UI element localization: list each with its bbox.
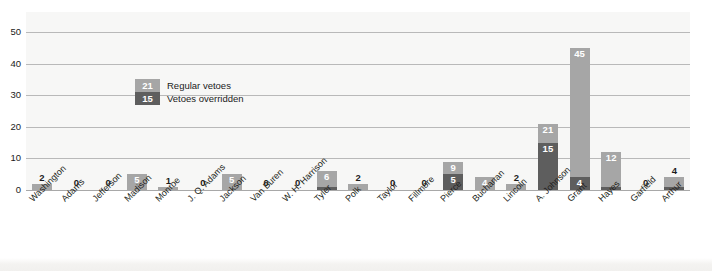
bar-value-label-total: 9: [443, 163, 463, 173]
bar-slot: 0: [630, 12, 662, 190]
bar-slot: 0: [282, 12, 314, 190]
bar-slot: 454: [567, 12, 599, 190]
page-edge-band: [0, 258, 712, 271]
bar-segment-regular-vetoes[interactable]: 45: [570, 48, 590, 177]
x-axis-label: Washington: [26, 192, 58, 210]
x-axis-label: Garfield: [627, 192, 659, 210]
bar-slot: 2: [29, 12, 61, 190]
y-tick-label-10: 10: [0, 153, 21, 163]
x-axis-label: Grant: [564, 192, 596, 210]
x-axis-label: Lincoln: [500, 192, 532, 210]
x-axis-label: Fillmore: [405, 192, 437, 210]
bar-value-label-total: 4: [664, 166, 684, 176]
x-axis-label: Tyler: [311, 192, 343, 210]
bar-value-label-overridden: 15: [538, 144, 558, 154]
x-axis-label: Jackson: [216, 192, 248, 210]
x-axis-label: Jefferson: [89, 192, 121, 210]
x-axis-label: Monroe: [152, 192, 184, 210]
chart-legend: 21 Regular vetoes 15 Vetoes overridden: [135, 79, 244, 105]
bar-slot: 4: [661, 12, 693, 190]
legend-swatch-regular-vetoes: 21: [135, 79, 160, 92]
bar-slot: 95: [440, 12, 472, 190]
bar-slot: 4: [472, 12, 504, 190]
x-axis-label: Madison: [121, 192, 153, 210]
y-tick-label-0: 0: [0, 185, 21, 195]
bar-value-label-total: 2: [348, 173, 368, 183]
x-axis-label: Adams: [58, 192, 90, 210]
x-axis-label: J. Q. Adams: [184, 192, 216, 210]
x-axis-label: Hayes: [595, 192, 627, 210]
legend-label-vetoes-overridden: Vetoes overridden: [160, 92, 244, 105]
bar-slot: 0: [61, 12, 93, 190]
bar-slot: 0: [92, 12, 124, 190]
bar-slot: 2115: [535, 12, 567, 190]
y-tick-label-20: 20: [0, 122, 21, 132]
bar-slot: 12: [598, 12, 630, 190]
bar-value-label-total: 21: [538, 125, 558, 135]
x-axis-label: Arthur: [658, 192, 690, 210]
y-tick-label-40: 40: [0, 59, 21, 69]
bar-slot: 0: [250, 12, 282, 190]
bar-slot: 0: [377, 12, 409, 190]
bar-segment-regular-vetoes[interactable]: 9: [443, 162, 463, 175]
legend-item-vetoes-overridden: 15 Vetoes overridden: [135, 92, 244, 105]
legend-item-regular-vetoes: 21 Regular vetoes: [135, 79, 244, 92]
bar-segment-regular-vetoes[interactable]: 21: [538, 124, 558, 143]
bar-slot: 2: [345, 12, 377, 190]
bar-slot: 0: [408, 12, 440, 190]
x-axis-labels-group: WashingtonAdamsJeffersonMadisonMonroeJ. …: [26, 192, 690, 262]
veto-bar-chart: 01020304050 2005105006200954221154541204…: [0, 0, 712, 271]
y-tick-label-30: 30: [0, 90, 21, 100]
x-axis-label: Taylor: [374, 192, 406, 210]
bar-value-label-total: 6: [317, 172, 337, 182]
legend-label-regular-vetoes: Regular vetoes: [160, 79, 231, 92]
bar-slot: 2: [503, 12, 535, 190]
x-axis-label: W. H. Harrison: [279, 192, 311, 210]
bar-stack[interactable]: 454: [570, 48, 590, 190]
x-axis-label: Polk: [342, 192, 374, 210]
x-axis-label: Buchanan: [469, 192, 501, 210]
bar-value-label-total: 45: [570, 49, 590, 59]
y-tick-label-50: 50: [0, 27, 21, 37]
legend-swatch-vetoes-overridden: 15: [135, 92, 160, 105]
x-axis-label: Van Buren: [247, 192, 279, 210]
x-axis-label: A. Johnson: [532, 192, 564, 210]
x-axis-label: Pierce: [437, 192, 469, 210]
bars-group: 2005105006200954221154541204: [26, 12, 690, 190]
bar-value-label-total: 12: [601, 153, 621, 163]
